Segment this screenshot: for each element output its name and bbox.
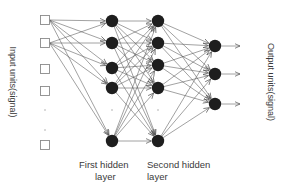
connection-edge [50, 43, 107, 84]
connection-edge [158, 43, 208, 46]
connection-edge [112, 49, 155, 141]
hidden1-neuron [106, 37, 118, 49]
output-units-label: Output units(signal) [266, 43, 276, 121]
connection-edge [158, 76, 208, 88]
hidden1-neuron [106, 135, 118, 147]
connection-edge [50, 20, 108, 83]
hidden2-neuron [152, 59, 164, 71]
connection-edge [50, 20, 106, 41]
connection-edge [50, 43, 109, 135]
input-unit [41, 65, 50, 74]
connection-edges [50, 20, 241, 141]
connection-edge [50, 20, 106, 21]
connection-edge [158, 43, 210, 99]
network-units [41, 15, 222, 150]
connection-edge [112, 21, 154, 82]
connection-edge [50, 20, 109, 135]
connection-edge [112, 93, 154, 141]
hidden2-neuron [152, 135, 164, 147]
connection-edge [112, 71, 155, 141]
connection-edge [158, 108, 209, 141]
second-hidden-layer-label: Second hidden [147, 159, 210, 170]
input-unit [41, 141, 50, 150]
connection-edge [158, 50, 210, 88]
connection-edge [112, 88, 154, 136]
hidden2-neuron [152, 37, 164, 49]
input-unit [41, 87, 50, 96]
hidden2-neuron [152, 82, 164, 94]
neural-network-diagram: Input units(signal) Output units(signal)… [0, 0, 289, 183]
ellipsis-dot [44, 129, 45, 130]
first-hidden-layer-label: First hidden [79, 159, 129, 170]
hidden1-neuron [106, 82, 118, 94]
ellipsis-dot [111, 109, 112, 110]
output-neuron [209, 98, 221, 110]
input-unit [41, 39, 50, 48]
output-neuron [209, 68, 221, 80]
second-hidden-layer-label-line2: layer [147, 171, 168, 182]
ellipsis-dot [157, 109, 158, 110]
ellipsis-dot [44, 109, 45, 110]
connection-edge [158, 79, 211, 141]
first-hidden-layer-label-line2: layer [95, 171, 116, 182]
connection-edge [112, 21, 153, 60]
connection-edge [112, 46, 152, 68]
input-unit [41, 16, 50, 25]
hidden2-neuron [152, 15, 164, 27]
output-neuron [209, 40, 221, 52]
hidden1-neuron [106, 62, 118, 74]
hidden1-neuron [106, 15, 118, 27]
connection-edge [50, 20, 107, 64]
connection-edge [158, 43, 209, 71]
connection-edge [50, 43, 106, 66]
connection-edge [112, 26, 153, 68]
connection-edge [112, 27, 154, 88]
input-units-label: Input units(signal) [8, 46, 18, 117]
